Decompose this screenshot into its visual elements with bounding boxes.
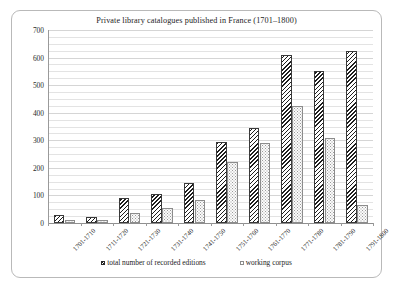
y-axis-tick-label: 300 [18,136,44,145]
bar-total-editions [346,51,357,223]
legend-swatch-total-icon [101,261,105,265]
bar-group [113,30,146,223]
bar-working-corpus [227,162,238,223]
bar-working-corpus [325,138,336,223]
y-axis-tick-label: 600 [18,53,44,62]
bar-total-editions [249,128,260,223]
y-axis-tick-labels: 0100200300400500600700 [14,30,44,223]
bar-total-editions [216,142,227,223]
y-axis-tick-label: 700 [18,26,44,35]
x-axis-tick-mark [373,223,374,226]
chart-legend: total number of recorded editions workin… [12,258,381,267]
bar-group [308,30,341,223]
x-axis-tick-mark [308,223,309,226]
bar-working-corpus [195,200,206,223]
x-axis-tick-mark [178,223,179,226]
bar-group [81,30,114,223]
x-axis-tick-label: 1731-1740 [169,227,194,252]
chart-container: Private library catalogues published in … [11,10,382,278]
legend-item-total: total number of recorded editions [101,258,206,267]
x-axis-tick-label: 1741-1750 [202,227,227,252]
bar-working-corpus [292,106,303,223]
x-axis-tick-mark [211,223,212,226]
y-axis-tick-label: 400 [18,108,44,117]
bar-total-editions [314,71,325,223]
x-axis-tick-label: 1761-1770 [267,227,292,252]
x-axis-tick-mark [81,223,82,226]
bar-group [211,30,244,223]
x-axis-tick-label: 1711-1720 [104,227,129,252]
x-axis-tick-mark [341,223,342,226]
x-axis-tick-mark [243,223,244,226]
bar-group [276,30,309,223]
bar-total-editions [281,55,292,223]
x-axis-tick-mark [113,223,114,226]
bar-total-editions [151,194,162,223]
y-axis-tick-label: 200 [18,163,44,172]
x-axis-tick-label: 1771-1780 [299,227,324,252]
chart-bars [48,30,373,223]
x-axis-tick-label: 1791-1800 [364,227,389,252]
y-axis-tick-label: 100 [18,191,44,200]
legend-label-total: total number of recorded editions [107,258,206,267]
y-axis-tick-label: 500 [18,81,44,90]
y-axis-tick-label: 0 [18,219,44,228]
legend-swatch-corpus-icon [240,261,244,265]
bar-total-editions [184,183,195,223]
bar-total-editions [54,215,65,223]
x-axis-tick-label: 1751-1760 [234,227,259,252]
bar-group [178,30,211,223]
bar-group [243,30,276,223]
legend-label-corpus: working corpus [246,258,292,267]
bar-working-corpus [260,143,271,223]
x-axis-tick-mark [48,223,49,226]
bar-working-corpus [162,208,173,223]
legend-item-corpus: working corpus [240,258,292,267]
x-axis-tick-label: 1721-1730 [137,227,162,252]
x-axis-tick-mark [146,223,147,226]
bar-group [146,30,179,223]
x-axis-tick-label: 1701-1710 [72,227,97,252]
x-axis-tick-label: 1781-1790 [332,227,357,252]
bar-group [341,30,374,223]
bar-group [48,30,81,223]
bar-working-corpus [130,213,141,223]
x-axis-tick-mark [276,223,277,226]
chart-title: Private library catalogues published in … [12,16,381,25]
bar-working-corpus [357,205,368,223]
bar-total-editions [119,198,130,223]
